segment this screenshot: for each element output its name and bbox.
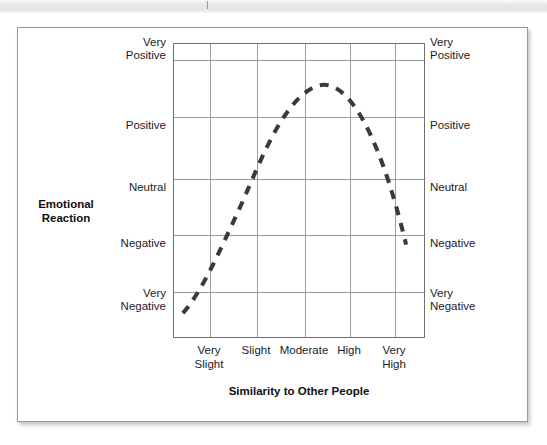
data-series-curve: [183, 85, 406, 313]
page-scan-band: [0, 0, 547, 13]
x-tick-label-very-high: Very High: [382, 344, 406, 371]
scan-artifact-mark: [207, 1, 208, 9]
y-axis-labels-left: Very Positive Positive Neutral Negative …: [98, 43, 166, 338]
x-tick-label-moderate: Moderate: [280, 344, 329, 358]
x-axis-labels: Very Slight Slight Moderate High Very Hi…: [173, 344, 425, 386]
y-tick-label-positive-left: Positive: [126, 119, 166, 132]
x-tick-label-slight: Slight: [242, 344, 271, 358]
y-tick-label-very-positive-right: Very Positive: [430, 36, 470, 62]
y-tick-label-neutral-left: Neutral: [129, 181, 166, 194]
x-tick-label-high: High: [337, 344, 361, 358]
y-tick-label-very-negative-right: Very Negative: [430, 287, 475, 313]
y-tick-label-very-positive-left: Very Positive: [126, 36, 166, 62]
data-curve-layer: [174, 44, 424, 337]
x-tick-label-very-slight: Very Slight: [195, 344, 224, 371]
plot-area: [173, 43, 425, 338]
y-axis-labels-right: Very Positive Positive Neutral Negative …: [430, 43, 510, 338]
y-tick-label-negative-left: Negative: [121, 237, 166, 250]
y-tick-label-neutral-right: Neutral: [430, 181, 467, 194]
y-tick-label-positive-right: Positive: [430, 119, 470, 132]
x-axis-title: Similarity to Other People: [173, 385, 425, 397]
figure-card: Emotional Reaction Very Positive Positiv…: [17, 27, 528, 422]
y-axis-title: Emotional Reaction: [32, 198, 100, 225]
y-tick-label-negative-right: Negative: [430, 237, 475, 250]
y-tick-label-very-negative-left: Very Negative: [121, 287, 166, 313]
